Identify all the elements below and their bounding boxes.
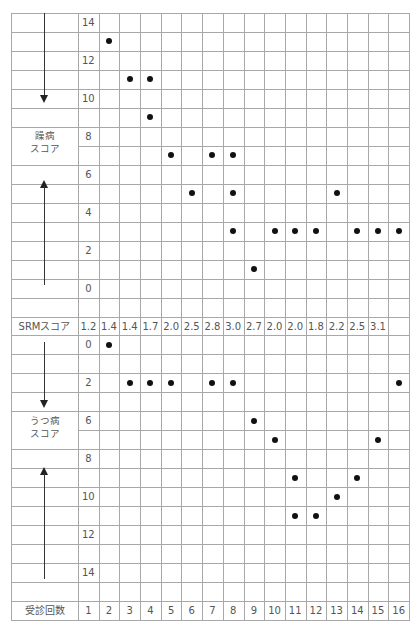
visit-count-row-label: 受診回数 — [11, 601, 78, 620]
srm-score-value: 1.8 — [306, 317, 327, 336]
depression-y-tick-label: 2 — [78, 373, 99, 392]
srm-score-value: 2.2 — [326, 317, 347, 336]
depression-data-point — [313, 513, 319, 519]
grid-line-horizontal — [11, 13, 410, 14]
srm-score-value: 2.0 — [161, 317, 182, 336]
srm-score-value: 1.2 — [78, 317, 99, 336]
mania-data-point — [313, 228, 319, 234]
grid-line-horizontal — [11, 354, 410, 355]
depression-data-point — [292, 475, 298, 481]
mania-data-point — [189, 190, 195, 196]
mania-down-arrow-icon — [40, 95, 48, 103]
depression-label-line2: スコア — [11, 427, 78, 440]
grid-line-horizontal — [11, 279, 410, 280]
grid-line-horizontal — [11, 184, 410, 185]
mania-label-line1: 躁病 — [11, 129, 78, 142]
depression-score-label: うつ病 スコア — [11, 414, 78, 440]
grid-line-horizontal — [11, 165, 410, 166]
depression-data-point — [251, 418, 257, 424]
depression-y-tick-label: 8 — [78, 449, 99, 468]
srm-score-value: 3.1 — [368, 317, 389, 336]
depression-down-arrow-shaft — [44, 342, 45, 402]
grid-line-horizontal — [11, 127, 410, 128]
grid-line-horizontal — [11, 392, 410, 393]
mania-data-point — [375, 228, 381, 234]
mania-up-arrow-shaft — [44, 186, 45, 285]
grid-line-horizontal — [11, 241, 410, 242]
depression-y-tick-label: 12 — [78, 525, 99, 544]
mania-data-point — [292, 228, 298, 234]
visit-number: 13 — [326, 601, 347, 620]
visit-number: 16 — [388, 601, 409, 620]
grid-line-horizontal — [11, 222, 410, 223]
mania-data-point — [147, 76, 153, 82]
visit-number: 6 — [181, 601, 202, 620]
visit-number: 7 — [202, 601, 223, 620]
depression-y-tick-label: 0 — [78, 335, 99, 354]
depression-data-point — [127, 380, 133, 386]
mania-y-tick-label: 8 — [78, 127, 99, 146]
mania-data-point — [230, 152, 236, 158]
mania-y-tick-label: 0 — [78, 279, 99, 298]
depression-data-point — [230, 380, 236, 386]
srm-score-value: 2.0 — [264, 317, 285, 336]
depression-y-tick-label: 14 — [78, 563, 99, 582]
mania-data-point — [251, 266, 257, 272]
depression-y-tick-label: 6 — [78, 411, 99, 430]
grid-line-horizontal — [11, 506, 410, 507]
grid-line-vertical — [11, 13, 12, 620]
srm-score-value: 1.4 — [119, 317, 140, 336]
mania-data-point — [334, 190, 340, 196]
grid-line-horizontal — [11, 260, 410, 261]
mania-data-point — [230, 190, 236, 196]
mania-y-tick-label: 12 — [78, 51, 99, 70]
grid-line-horizontal — [11, 89, 410, 90]
grid-line-horizontal — [11, 582, 410, 583]
depression-y-tick-label: 10 — [78, 487, 99, 506]
srm-score-value: 2.5 — [181, 317, 202, 336]
visit-number: 10 — [264, 601, 285, 620]
grid-line-horizontal — [11, 298, 410, 299]
grid-line-horizontal — [11, 620, 410, 621]
srm-score-value: 1.4 — [99, 317, 120, 336]
mania-y-tick-label: 10 — [78, 89, 99, 108]
grid-line-horizontal — [11, 32, 410, 33]
grid-line-horizontal — [11, 70, 410, 71]
depression-data-point — [396, 380, 402, 386]
visit-number: 5 — [161, 601, 182, 620]
grid-line-horizontal — [11, 203, 410, 204]
mania-data-point — [168, 152, 174, 158]
depression-label-line1: うつ病 — [11, 414, 78, 427]
srm-score-value: 2.0 — [285, 317, 306, 336]
score-chart-grid: 躁病 スコア うつ病 スコア SRMスコア 受診回数 1412108642002… — [11, 13, 409, 620]
mania-label-line2: スコア — [11, 142, 78, 155]
srm-score-value: 3.0 — [223, 317, 244, 336]
visit-number: 8 — [223, 601, 244, 620]
depression-down-arrow-icon — [40, 400, 48, 408]
depression-data-point — [334, 494, 340, 500]
grid-line-horizontal — [11, 411, 410, 412]
srm-score-value: 1.7 — [140, 317, 161, 336]
visit-number: 11 — [285, 601, 306, 620]
mania-y-tick-label: 6 — [78, 165, 99, 184]
grid-line-horizontal — [11, 51, 410, 52]
mania-score-label: 躁病 スコア — [11, 129, 78, 155]
mania-data-point — [396, 228, 402, 234]
mania-data-point — [127, 76, 133, 82]
visit-number: 9 — [244, 601, 265, 620]
mania-y-tick-label: 14 — [78, 13, 99, 32]
depression-data-point — [147, 380, 153, 386]
grid-line-horizontal — [11, 544, 410, 545]
visit-number: 15 — [368, 601, 389, 620]
mania-down-arrow-shaft — [44, 13, 45, 97]
visit-number: 4 — [140, 601, 161, 620]
mania-data-point — [272, 228, 278, 234]
grid-line-horizontal — [11, 525, 410, 526]
grid-line-horizontal — [11, 563, 410, 564]
srm-score-value: 2.7 — [244, 317, 265, 336]
grid-line-vertical — [409, 13, 410, 620]
visit-number: 14 — [347, 601, 368, 620]
depression-up-arrow-shaft — [44, 473, 45, 579]
grid-line-horizontal — [11, 108, 410, 109]
srm-score-value: 2.8 — [202, 317, 223, 336]
